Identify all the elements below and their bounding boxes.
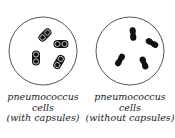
caption-line: (with capsules) [0, 113, 88, 124]
bare-cell-icon [145, 37, 160, 49]
bare-cell-icon [114, 53, 126, 68]
caption-line: (without capsules) [85, 113, 175, 124]
dish-without-capsules [96, 17, 164, 85]
caption-with-capsules: pneumococcus cells (with capsules) [0, 92, 88, 124]
capsule-cell-icon [54, 40, 69, 48]
petri-dish-outline-right [96, 17, 164, 85]
capsule-cell-icon [32, 51, 40, 66]
bare-cell-icon [139, 56, 150, 71]
caption-line: pneumococcus [0, 92, 88, 103]
pneumococcus-diagram: pneumococcus cells (with capsules) pneum… [0, 0, 175, 138]
bare-cell-icon [129, 27, 136, 41]
caption-line: pneumococcus [85, 92, 175, 103]
dish-with-capsules [9, 17, 77, 85]
capsule-cell-icon [52, 54, 66, 71]
capsule-cell-icon [37, 27, 53, 43]
caption-without-capsules: pneumococcus cells (without capsules) [85, 92, 175, 124]
petri-dish-outline-left [9, 17, 77, 85]
